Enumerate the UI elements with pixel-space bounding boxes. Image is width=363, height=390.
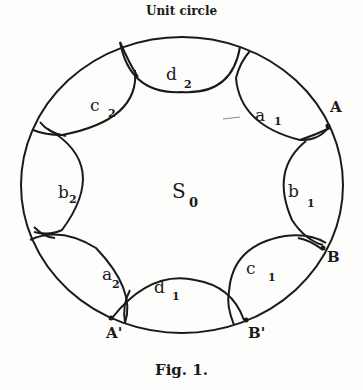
label-S0: S xyxy=(172,179,186,203)
label-point-A: A xyxy=(329,98,342,116)
label-a1: a xyxy=(255,105,265,125)
label-d1-sub: 1 xyxy=(172,290,180,303)
label-c2-sub: 2 xyxy=(108,107,116,120)
label-a2-sub: 2 xyxy=(112,278,120,291)
label-d1: d xyxy=(154,277,165,297)
label-c1: c xyxy=(246,258,256,278)
label-b1: b xyxy=(288,181,299,201)
point-B-prime-dot xyxy=(244,318,249,323)
arc-d2 xyxy=(120,42,240,92)
point-A-dot xyxy=(326,124,331,129)
label-a2: a xyxy=(102,264,112,284)
label-c2: c xyxy=(90,95,100,115)
label-point-A-prime: A' xyxy=(105,324,122,342)
point-B-dot xyxy=(321,246,326,251)
label-c1-sub: 1 xyxy=(268,271,276,284)
point-A-prime-dot xyxy=(109,316,114,321)
label-b1-sub: 1 xyxy=(307,197,315,210)
label-d2-sub: 2 xyxy=(184,78,192,91)
figure-caption: Fig. 1. xyxy=(0,361,363,379)
label-a1-sub: 1 xyxy=(274,115,282,128)
label-S0-sub: 0 xyxy=(189,195,198,210)
arc-a1 xyxy=(236,78,328,140)
arc-c1 xyxy=(229,235,326,292)
label-point-B: B xyxy=(327,248,340,266)
unit-circle-diagram: d 2 c 2 a 1 b 2 b 1 a 2 c 1 d 1 S 0 A B … xyxy=(0,0,363,390)
stray-mark xyxy=(223,117,240,119)
label-b2: b xyxy=(58,182,69,202)
label-b2-sub: 2 xyxy=(69,193,77,206)
label-point-B-prime: B' xyxy=(248,324,265,342)
label-d2: d xyxy=(166,64,177,84)
